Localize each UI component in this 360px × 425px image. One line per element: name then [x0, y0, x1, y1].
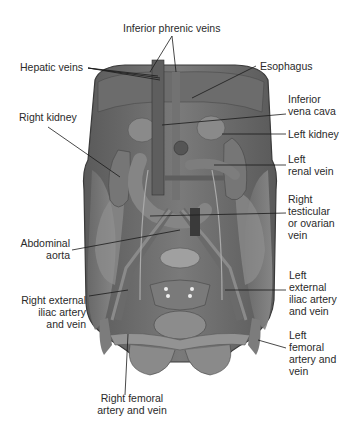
label-line: aorta	[18, 249, 70, 261]
label-right-external-iliac-artery-and-vein: Right external iliac artery and vein	[14, 294, 86, 330]
label-line: artery and vein	[95, 404, 169, 416]
label-line: Left	[288, 153, 334, 165]
label-left-femoral-artery-and-vein: Left femoral artery and vein	[289, 329, 336, 377]
label-line: testicular	[288, 205, 335, 217]
label-line: Right external	[14, 294, 86, 306]
label-inferior-vena-cava: Inferior vena cava	[288, 93, 336, 117]
label-line: external	[289, 281, 337, 293]
label-line: femoral	[289, 341, 336, 353]
label-hepatic-veins: Hepatic veins	[20, 61, 83, 73]
label-line: Right kidney	[19, 111, 77, 123]
label-line: Left kidney	[288, 128, 339, 140]
label-abdominal-aorta: Abdominal aorta	[18, 237, 70, 261]
label-inferior-phrenic-veins: Inferior phrenic veins	[123, 22, 220, 34]
label-line: Inferior phrenic veins	[123, 22, 220, 34]
label-line: and vein	[14, 318, 86, 330]
label-line: vena cava	[288, 105, 336, 117]
label-line: and vein	[289, 305, 337, 317]
label-line: Hepatic veins	[20, 61, 83, 73]
label-line: vein	[289, 365, 336, 377]
label-line: Left	[289, 269, 337, 281]
label-right-testicular-or-ovarian-vein: Right testicular or ovarian vein	[288, 193, 335, 241]
label-left-external-iliac-artery-and-vein: Left external iliac artery and vein	[289, 269, 337, 317]
label-left-kidney: Left kidney	[288, 128, 339, 140]
label-line: Left	[289, 329, 336, 341]
label-line: iliac artery	[289, 293, 337, 305]
label-line: Right	[288, 193, 335, 205]
label-line: Abdominal	[18, 237, 70, 249]
label-right-femoral-artery-and-vein: Right femoral artery and vein	[95, 392, 169, 416]
label-line: Right femoral	[95, 392, 169, 404]
label-line: renal vein	[288, 165, 334, 177]
label-line: Inferior	[288, 93, 336, 105]
label-right-kidney: Right kidney	[19, 111, 77, 123]
label-line: or ovarian	[288, 217, 335, 229]
label-line: iliac artery	[14, 306, 86, 318]
label-esophagus: Esophagus	[260, 60, 313, 72]
label-left-renal-vein: Left renal vein	[288, 153, 334, 177]
label-line: vein	[288, 229, 335, 241]
label-line: artery and	[289, 353, 336, 365]
label-line: Esophagus	[260, 60, 313, 72]
